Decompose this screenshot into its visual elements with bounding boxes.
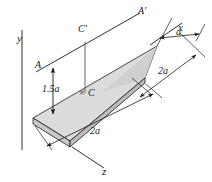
dim-a-ext-upper: [157, 18, 172, 46]
y-axis-label: y: [17, 33, 22, 44]
point-c-prime-label: C': [78, 24, 87, 34]
point-a-prime-label: A': [138, 6, 146, 16]
dim-2a-bottom-label: 2a: [90, 126, 100, 136]
axis-aa-prime-line: [36, 13, 140, 72]
z-axis-label: z: [102, 166, 106, 177]
dim-a-label: a: [176, 27, 181, 37]
point-c-label: C: [88, 88, 95, 98]
z-axis-line: [72, 147, 104, 168]
centroid-marker-icon: ×: [79, 88, 85, 98]
dim-height-label: 1.5a: [42, 84, 60, 94]
dim-a-ext-lower: [196, 24, 205, 41]
dim-2a-right-label: 2a: [158, 66, 168, 76]
point-a-label: A: [35, 60, 41, 70]
mechanics-figure: y x z A A' C' × C 1.5a a 2a 2a: [0, 0, 212, 182]
dim-2a-right-ext-top: [180, 33, 205, 57]
